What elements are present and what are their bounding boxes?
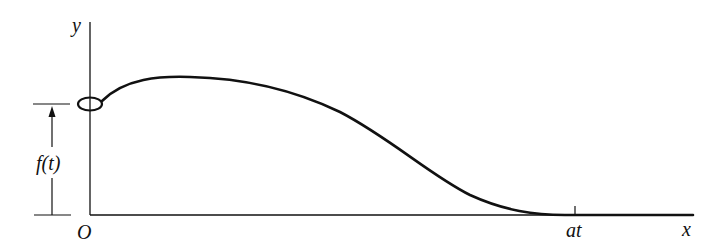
diagram-canvas: y x O at f(t): [0, 0, 725, 250]
origin-label: O: [77, 221, 91, 243]
y-axis-label: y: [70, 14, 81, 37]
wave-curve: [102, 77, 693, 215]
dimension-arrowhead-icon: [49, 106, 56, 117]
at-tick-label: at: [566, 219, 582, 241]
dimension-label: f(t): [36, 152, 61, 175]
x-axis-label: x: [681, 218, 691, 240]
